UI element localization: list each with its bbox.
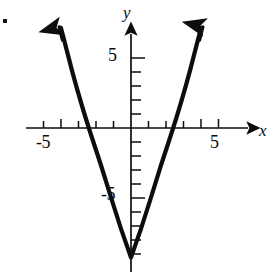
y-tick-label-neg5: -5 — [101, 185, 115, 203]
y-tick-label-pos5: 5 — [108, 46, 117, 64]
graph-figure: y x -5 5 5 -5 — [0, 0, 275, 275]
y-axis-label: y — [123, 4, 131, 21]
x-axis-label: x — [259, 122, 267, 139]
x-axis — [26, 119, 248, 128]
x-tick-label-neg5: -5 — [36, 133, 50, 151]
x-tick-label-pos5: 5 — [210, 133, 219, 151]
